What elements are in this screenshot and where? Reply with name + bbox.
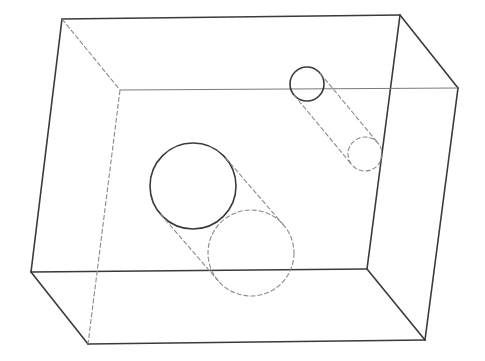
small-hole-upper-tangent [294, 95, 352, 165]
top-right-depth-edge [400, 15, 458, 88]
block-wireframe-diagram [0, 0, 485, 361]
top-back-edge [120, 88, 458, 90]
right-back-edge [425, 88, 458, 340]
left-back-edge-hidden [88, 90, 120, 344]
large-hole [150, 143, 294, 296]
bottom-right-depth-edge [367, 269, 425, 340]
top-front-edge [62, 15, 400, 19]
small-hole-lower-tangent [320, 73, 378, 143]
small-hole-back-circle [348, 137, 382, 171]
right-front-edge [367, 15, 400, 269]
large-hole-lower-tangent [226, 158, 284, 225]
bottom-back-edge [88, 340, 425, 344]
top-left-depth-edge-hidden [62, 19, 120, 90]
bottom-front-edge [31, 269, 367, 272]
left-front-edge [31, 19, 62, 272]
cylindrical-holes [150, 67, 382, 296]
bottom-left-depth-edge [31, 272, 88, 344]
small-hole [290, 67, 382, 171]
